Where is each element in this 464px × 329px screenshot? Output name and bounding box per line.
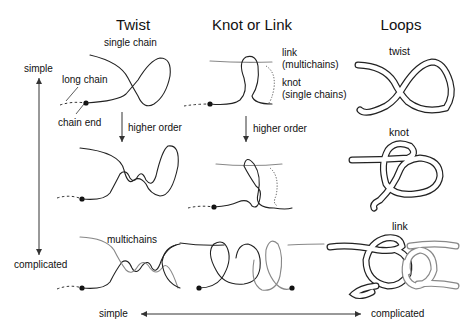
column-title-knot-or-link: Knot or Link xyxy=(212,16,293,33)
label-link: link xyxy=(282,47,298,58)
link-multichains xyxy=(0,0,324,291)
label-loops-link: link xyxy=(392,220,409,232)
label-higher-order-knot: higher order xyxy=(253,123,308,134)
twist-single-chain: single chain long chain chain end xyxy=(58,37,170,128)
vertical-axis: simple complicated xyxy=(14,63,67,270)
arrow-right-icon xyxy=(355,311,361,317)
column-title-twist: Twist xyxy=(116,16,151,33)
label-higher-order-twist: higher order xyxy=(128,122,183,133)
twist-arrow-higher-order: higher order xyxy=(119,112,183,142)
column-title-loops: Loops xyxy=(381,16,422,33)
label-long-chain: long chain xyxy=(62,74,108,85)
label-chain-end: chain end xyxy=(58,117,101,128)
topology-diagram: Twist Knot or Link Loops simple complica… xyxy=(0,0,464,329)
label-link-multichains: (multichains) xyxy=(282,59,339,70)
loops-link: link xyxy=(330,220,456,296)
twist-higher-order xyxy=(57,146,178,202)
knot-higher-order xyxy=(188,159,292,209)
horizontal-axis-left-label: simple xyxy=(99,308,128,319)
loops-knot: knot xyxy=(352,126,440,208)
knot-arrow-higher-order: higher order xyxy=(243,116,308,142)
label-loops-twist: twist xyxy=(389,45,410,57)
horizontal-axis: simple complicated xyxy=(99,308,424,319)
arrow-left-icon xyxy=(141,311,147,317)
loops-twist: twist xyxy=(358,45,451,112)
arrow-up-icon xyxy=(36,78,42,84)
label-loops-knot: knot xyxy=(389,126,409,138)
vertical-axis-top-label: simple xyxy=(24,63,53,74)
horizontal-axis-right-label: complicated xyxy=(371,308,424,319)
label-multichains: multichains xyxy=(107,234,157,245)
label-knot-single-chains: (single chains) xyxy=(282,89,346,100)
knot-single: link (multichains) knot (single chains) xyxy=(184,47,346,107)
arrow-down-icon xyxy=(36,249,42,255)
vertical-axis-bottom-label: complicated xyxy=(14,259,67,270)
label-knot: knot xyxy=(282,77,301,88)
label-single-chain: single chain xyxy=(104,37,157,48)
